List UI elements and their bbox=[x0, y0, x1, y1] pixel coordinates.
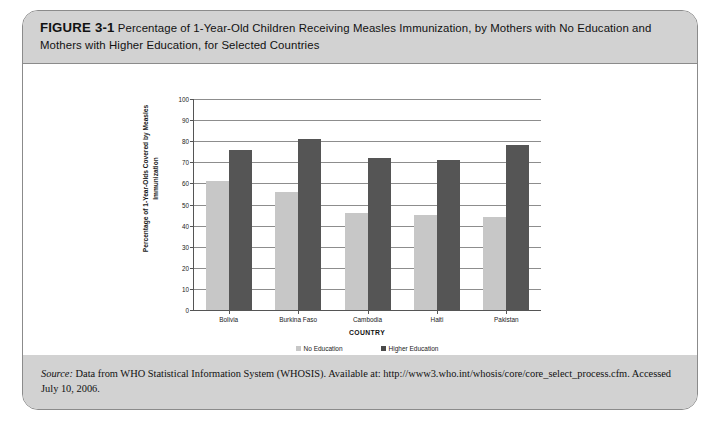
legend-swatch-icon bbox=[381, 346, 386, 351]
legend-item[interactable]: No Education bbox=[296, 345, 343, 352]
y-axis-tick-label: 50 bbox=[182, 201, 189, 208]
x-axis-tick-mark bbox=[506, 310, 507, 314]
y-axis-tick-label: 80 bbox=[182, 138, 189, 145]
bar-group: Cambodia bbox=[333, 99, 402, 310]
x-axis-tick-label: Bolivia bbox=[194, 316, 263, 323]
y-axis-tick-label: 10 bbox=[182, 285, 189, 292]
legend-item[interactable]: Higher Education bbox=[381, 345, 439, 352]
figure-caption-band: FIGURE 3-1 Percentage of 1-Year-Old Chil… bbox=[23, 11, 697, 64]
y-axis-tick-label: 60 bbox=[182, 180, 189, 187]
bar-higher-education[interactable] bbox=[298, 139, 321, 310]
figure-number-label: FIGURE 3-1 bbox=[40, 20, 115, 35]
y-axis-tick-label: 70 bbox=[182, 159, 189, 166]
bar-group: Bolivia bbox=[194, 99, 263, 310]
source-prefix-label: Source: bbox=[41, 368, 73, 379]
source-citation-text: Data from WHO Statistical Information Sy… bbox=[41, 368, 671, 394]
figure-frame: FIGURE 3-1 Percentage of 1-Year-Old Chil… bbox=[22, 10, 698, 410]
y-axis-tick-label: 100 bbox=[178, 96, 189, 103]
bar-group: Haiti bbox=[402, 99, 471, 310]
chart-panel: Percentage of 1-Year-Olds Covered by Mea… bbox=[23, 64, 697, 357]
x-axis-tick-mark bbox=[368, 310, 369, 314]
plot-area: 0102030405060708090100 BoliviaBurkina Fa… bbox=[193, 99, 541, 311]
bar-higher-education[interactable] bbox=[368, 158, 391, 310]
y-axis-title: Percentage of 1-Year-Olds Covered by Mea… bbox=[141, 86, 160, 271]
figure-source-band: Source: Data from WHO Statistical Inform… bbox=[23, 355, 697, 409]
bar-no-education[interactable] bbox=[483, 217, 506, 310]
x-axis-tick-label: Burkina Faso bbox=[263, 316, 332, 323]
x-axis-tick-label: Haiti bbox=[402, 316, 471, 323]
bar-no-education[interactable] bbox=[206, 181, 229, 310]
bar-no-education[interactable] bbox=[345, 213, 368, 310]
x-axis-tick-mark bbox=[298, 310, 299, 314]
y-axis-tick-label: 20 bbox=[182, 264, 189, 271]
legend-swatch-icon bbox=[296, 346, 301, 351]
figure-caption-text: Percentage of 1-Year-Old Children Receiv… bbox=[40, 22, 651, 51]
y-axis-tick-label: 0 bbox=[185, 307, 189, 314]
x-axis-tick-label: Pakistan bbox=[472, 316, 541, 323]
x-axis-tick-label: Cambodia bbox=[333, 316, 402, 323]
x-axis-tick-mark bbox=[229, 310, 230, 314]
y-axis-tick-mark bbox=[190, 310, 194, 311]
x-axis-title: COUNTRY bbox=[193, 329, 541, 336]
bar-group: Burkina Faso bbox=[263, 99, 332, 310]
y-axis-tick-label: 40 bbox=[182, 222, 189, 229]
chart-legend: No EducationHigher Education bbox=[193, 345, 541, 352]
chart-plot-wrapper: Percentage of 1-Year-Olds Covered by Mea… bbox=[151, 64, 571, 357]
legend-label: No Education bbox=[304, 345, 343, 352]
figure-source: Source: Data from WHO Statistical Inform… bbox=[41, 366, 681, 396]
x-axis-tick-mark bbox=[437, 310, 438, 314]
bar-no-education[interactable] bbox=[275, 192, 298, 310]
y-axis-tick-label: 30 bbox=[182, 243, 189, 250]
bar-higher-education[interactable] bbox=[506, 145, 529, 310]
bar-higher-education[interactable] bbox=[229, 150, 252, 310]
figure-caption: FIGURE 3-1 Percentage of 1-Year-Old Chil… bbox=[40, 19, 683, 54]
legend-label: Higher Education bbox=[389, 345, 439, 352]
bar-groups: BoliviaBurkina FasoCambodiaHaitiPakistan bbox=[194, 99, 541, 310]
bar-no-education[interactable] bbox=[414, 215, 437, 310]
bar-higher-education[interactable] bbox=[437, 160, 460, 310]
bar-group: Pakistan bbox=[472, 99, 541, 310]
y-axis-tick-label: 90 bbox=[182, 117, 189, 124]
